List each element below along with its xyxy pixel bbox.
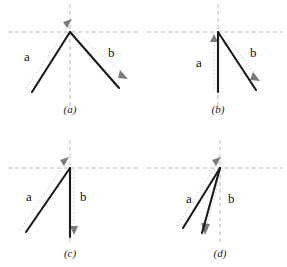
vector-b bbox=[218, 32, 256, 90]
vector-a bbox=[32, 32, 70, 92]
axes-d bbox=[147, 140, 283, 242]
guide-arrowhead-a bbox=[60, 157, 69, 166]
vector-label-a-panel-c: a bbox=[26, 190, 32, 203]
caption-panel-c: (c) bbox=[52, 247, 88, 259]
panel-a bbox=[0, 0, 144, 110]
vector-label-b-panel-c: b bbox=[80, 190, 87, 203]
vector-a bbox=[26, 168, 70, 232]
panel-b bbox=[144, 0, 287, 110]
vector-label-b-panel-b: b bbox=[250, 46, 257, 59]
guides-d bbox=[177, 157, 222, 235]
caption-panel-a: (a) bbox=[52, 103, 88, 115]
axes-b bbox=[147, 4, 283, 106]
guide-line-a bbox=[177, 164, 217, 226]
guide-arrowhead-b bbox=[250, 72, 260, 81]
vector-b bbox=[202, 168, 220, 233]
vector-label-a-panel-d: a bbox=[186, 192, 192, 205]
guide-arrowhead-a bbox=[63, 19, 72, 28]
guide-line-a bbox=[26, 26, 69, 88]
caption-panel-b: (b) bbox=[200, 103, 236, 115]
vector-label-b-panel-d: b bbox=[228, 192, 235, 205]
vector-label-a-panel-a: a bbox=[24, 50, 30, 63]
vector-b bbox=[70, 32, 119, 88]
caption-panel-d: (d) bbox=[202, 247, 238, 259]
guide-arrowhead-b bbox=[118, 70, 128, 79]
vectors-b bbox=[218, 32, 256, 92]
guide-line-b bbox=[73, 30, 124, 74]
vector-label-a-panel-b: a bbox=[196, 56, 202, 69]
vector-diagram-figure: a b (a) a b (b) bbox=[0, 0, 287, 267]
vectors-c bbox=[26, 168, 70, 237]
vectors-a bbox=[32, 32, 119, 92]
vector-label-b-panel-a: b bbox=[108, 46, 115, 59]
guide-arrowhead-a bbox=[210, 34, 218, 42]
guide-arrowhead-b bbox=[70, 226, 78, 235]
